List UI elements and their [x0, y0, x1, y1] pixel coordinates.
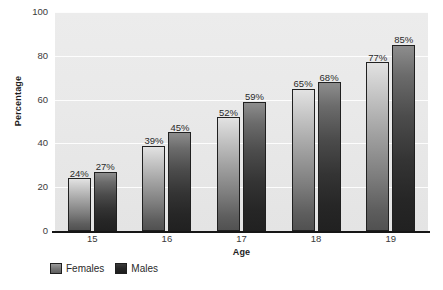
- bar-value-label: 45%: [170, 123, 189, 133]
- y-axis-tick-labels: 020406080100: [22, 0, 48, 290]
- legend-label: Females: [66, 264, 104, 274]
- bar-value-label: 85%: [394, 35, 413, 45]
- x-axis-title: Age: [55, 247, 428, 257]
- bar-males-age-15: 27%: [94, 172, 117, 231]
- chart-legend: FemalesMales: [50, 263, 158, 274]
- bar-chart-figure: Percentage 020406080100 24%27%39%45%52%5…: [0, 0, 443, 290]
- bar-value-label: 59%: [245, 92, 264, 102]
- bar-groups: 24%27%39%45%52%59%65%68%77%85%: [55, 12, 428, 231]
- bar-females-age-19: 77%: [366, 62, 389, 231]
- bar-value-label: 77%: [368, 53, 387, 63]
- y-axis-tick-40: 40: [22, 138, 48, 148]
- females-swatch: [50, 263, 62, 274]
- y-axis-tick-20: 20: [22, 182, 48, 192]
- bar-females-age-16: 39%: [142, 146, 165, 231]
- y-axis-tick-80: 80: [22, 51, 48, 61]
- y-axis-tick-60: 60: [22, 95, 48, 105]
- bar-value-label: 27%: [96, 162, 115, 172]
- bar-value-label: 65%: [294, 79, 313, 89]
- bar-males-age-16: 45%: [168, 132, 191, 231]
- bar-males-age-17: 59%: [243, 102, 266, 231]
- bar-value-label: 52%: [219, 108, 238, 118]
- x-axis-tick-19: 19: [385, 234, 396, 244]
- bar-value-label: 39%: [144, 136, 163, 146]
- x-axis-tick-18: 18: [311, 234, 322, 244]
- bar-males-age-19: 85%: [392, 45, 415, 231]
- bar-value-label: 68%: [320, 73, 339, 83]
- y-axis-tick-0: 0: [22, 226, 48, 236]
- y-axis-tick-100: 100: [22, 7, 48, 17]
- plot-area: 24%27%39%45%52%59%65%68%77%85%: [55, 12, 428, 231]
- x-axis-tick-15: 15: [87, 234, 98, 244]
- legend-item-females: Females: [50, 263, 104, 274]
- legend-label: Males: [131, 264, 158, 274]
- x-axis-tick-labels: 1516171819: [55, 234, 428, 248]
- males-swatch: [115, 263, 127, 274]
- bar-males-age-18: 68%: [318, 82, 341, 231]
- bar-value-label: 24%: [70, 169, 89, 179]
- bar-females-age-17: 52%: [217, 117, 240, 231]
- legend-item-males: Males: [115, 263, 158, 274]
- bar-females-age-15: 24%: [68, 178, 91, 231]
- x-axis-tick-16: 16: [162, 234, 173, 244]
- x-axis-tick-17: 17: [236, 234, 247, 244]
- bar-females-age-18: 65%: [292, 89, 315, 231]
